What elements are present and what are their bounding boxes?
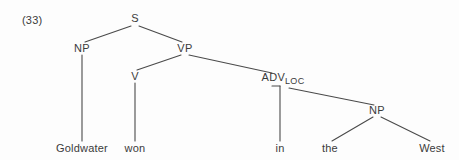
edge-advloc-np: [289, 88, 374, 105]
node-v: V: [131, 70, 139, 82]
node-vp: VP: [177, 42, 192, 54]
node-s: S: [131, 12, 139, 24]
node-adv-loc-label: ADV: [262, 71, 286, 83]
terminal-the: the: [322, 142, 338, 154]
terminal-goldwater: Goldwater: [56, 142, 108, 154]
edge-vp-v: [137, 55, 181, 70]
edge-np-west: [381, 117, 430, 141]
terminal-west: West: [419, 142, 445, 154]
node-s-label: S: [131, 12, 139, 24]
edge-s-vp: [139, 26, 182, 42]
node-vp-label: VP: [177, 42, 192, 54]
edge-np-the: [332, 117, 373, 141]
node-np-subject-label: NP: [74, 42, 90, 54]
node-np-object: NP: [369, 104, 385, 116]
terminal-in: in: [276, 142, 285, 154]
node-np-object-label: NP: [369, 104, 385, 116]
edge-vp-advloc: [189, 55, 272, 73]
edge-s-np: [85, 26, 131, 42]
node-adv-loc: ADVLOC: [262, 71, 305, 83]
node-adv-loc-subscript: LOC: [285, 76, 304, 86]
syntax-tree-figure: (33) S NP VP V ADVLOC NP Goldwater: [0, 0, 459, 160]
node-np-subject: NP: [74, 42, 90, 54]
node-v-label: V: [131, 70, 139, 82]
terminal-won: won: [125, 142, 146, 154]
tree-branch-lines: [0, 0, 459, 160]
